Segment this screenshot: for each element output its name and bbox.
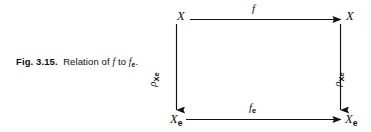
node-top-right-symbol: X: [346, 9, 354, 23]
node-bottom-right-subscript: e: [353, 118, 358, 128]
node-bottom-left-symbol: X: [170, 112, 178, 126]
arrow-label-top-symbol: f: [252, 2, 255, 14]
arrow-label-left: ρXe: [147, 72, 160, 86]
node-bottom-right: Xe: [345, 113, 357, 127]
arrow-label-top: f: [252, 3, 255, 14]
arrow-label-left-subscript: Xe: [152, 72, 161, 81]
arrow-label-left-symbol: ρ: [146, 81, 158, 86]
figure-container: Fig. 3.15. Relation of f to fe. X --> Xe…: [0, 0, 371, 132]
node-bottom-left: Xe: [170, 113, 182, 127]
arrow-label-bottom: fe: [249, 102, 256, 115]
node-bottom-right-symbol: X: [345, 112, 353, 126]
arrow-label-right-subscript: Xe: [337, 72, 346, 81]
arrow-label-bottom-subscript: e: [252, 106, 256, 115]
node-top-left: X: [177, 10, 185, 23]
arrow-label-right: ρXe: [332, 72, 345, 86]
node-bottom-left-subscript: e: [178, 118, 183, 128]
node-top-right: X: [346, 10, 354, 23]
arrow-label-right-symbol: ρ: [331, 81, 343, 86]
commutative-square-arrows: X --> Xe --> Xe --> Xe -->: [0, 0, 371, 132]
node-top-left-symbol: X: [177, 9, 185, 23]
